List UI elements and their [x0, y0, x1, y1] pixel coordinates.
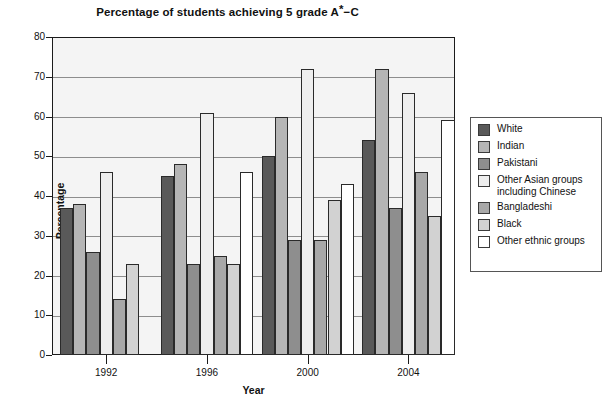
x-tick-label: 2004	[378, 367, 438, 378]
bar	[187, 264, 200, 355]
bar	[341, 184, 354, 355]
bar	[262, 156, 275, 355]
bar	[415, 172, 428, 355]
legend-label: Black	[497, 218, 521, 230]
bar	[174, 164, 187, 355]
y-tick-label: 50	[11, 150, 45, 161]
bar	[288, 240, 301, 355]
chart-title-prefix: Percentage of students achieving 5 grade…	[96, 6, 339, 18]
y-tick-mark	[46, 355, 52, 356]
chart-title-suffix: −C	[344, 6, 359, 18]
legend-swatch-icon	[478, 175, 490, 187]
legend-item[interactable]: Other ethnic groups	[478, 235, 597, 248]
legend-item[interactable]: Other Asian groups including Chinese	[478, 174, 597, 197]
bar	[100, 172, 113, 355]
x-tick-mark	[106, 355, 107, 364]
bar	[73, 204, 86, 355]
legend: WhiteIndianPakistaniOther Asian groups i…	[470, 117, 602, 272]
bars-layer	[52, 37, 455, 355]
legend-swatch-icon	[478, 219, 490, 231]
legend-swatch-icon	[478, 202, 490, 214]
legend-label: Indian	[497, 140, 524, 152]
bar	[314, 240, 327, 355]
legend-item[interactable]: Black	[478, 218, 597, 231]
legend-label: Other ethnic groups	[497, 235, 585, 247]
bar	[362, 140, 375, 355]
bar	[113, 299, 126, 355]
legend-swatch-icon	[478, 158, 490, 170]
bar	[389, 208, 402, 355]
bar	[275, 117, 288, 356]
x-tick-label: 1992	[76, 367, 136, 378]
bar	[375, 69, 388, 355]
bar	[60, 208, 73, 355]
x-tick-mark	[408, 355, 409, 364]
y-tick-label: 0	[11, 349, 45, 360]
legend-label: White	[497, 123, 523, 135]
legend-label: Pakistani	[497, 157, 538, 169]
bar	[161, 176, 174, 355]
y-tick-label: 80	[11, 31, 45, 42]
bar	[240, 172, 253, 355]
y-tick-label: 40	[11, 190, 45, 201]
bar	[86, 252, 99, 355]
chart-title: Percentage of students achieving 5 grade…	[0, 6, 455, 18]
bar	[441, 120, 454, 355]
y-tick-label: 30	[11, 230, 45, 241]
bar	[328, 200, 341, 355]
bar	[126, 264, 139, 355]
bar	[301, 69, 314, 355]
legend-item[interactable]: Bangladeshi	[478, 201, 597, 214]
bar	[428, 216, 441, 355]
y-tick-label: 20	[11, 270, 45, 281]
legend-swatch-icon	[478, 124, 490, 136]
y-tick-label: 70	[11, 71, 45, 82]
legend-item[interactable]: Pakistani	[478, 157, 597, 170]
x-tick-label: 1996	[177, 367, 237, 378]
legend-swatch-icon	[478, 141, 490, 153]
bar	[200, 113, 213, 355]
bar	[214, 256, 227, 355]
legend-item[interactable]: Indian	[478, 140, 597, 153]
y-tick-label: 10	[11, 309, 45, 320]
bar	[227, 264, 240, 355]
legend-item[interactable]: White	[478, 123, 597, 136]
x-tick-mark	[207, 355, 208, 364]
legend-label: Bangladeshi	[497, 201, 552, 213]
x-tick-mark	[308, 355, 309, 364]
x-axis-title: Year	[52, 384, 455, 396]
x-tick-label: 2000	[278, 367, 338, 378]
bar	[402, 93, 415, 355]
y-tick-label: 60	[11, 111, 45, 122]
legend-swatch-icon	[478, 236, 490, 248]
legend-label: Other Asian groups including Chinese	[497, 174, 583, 197]
